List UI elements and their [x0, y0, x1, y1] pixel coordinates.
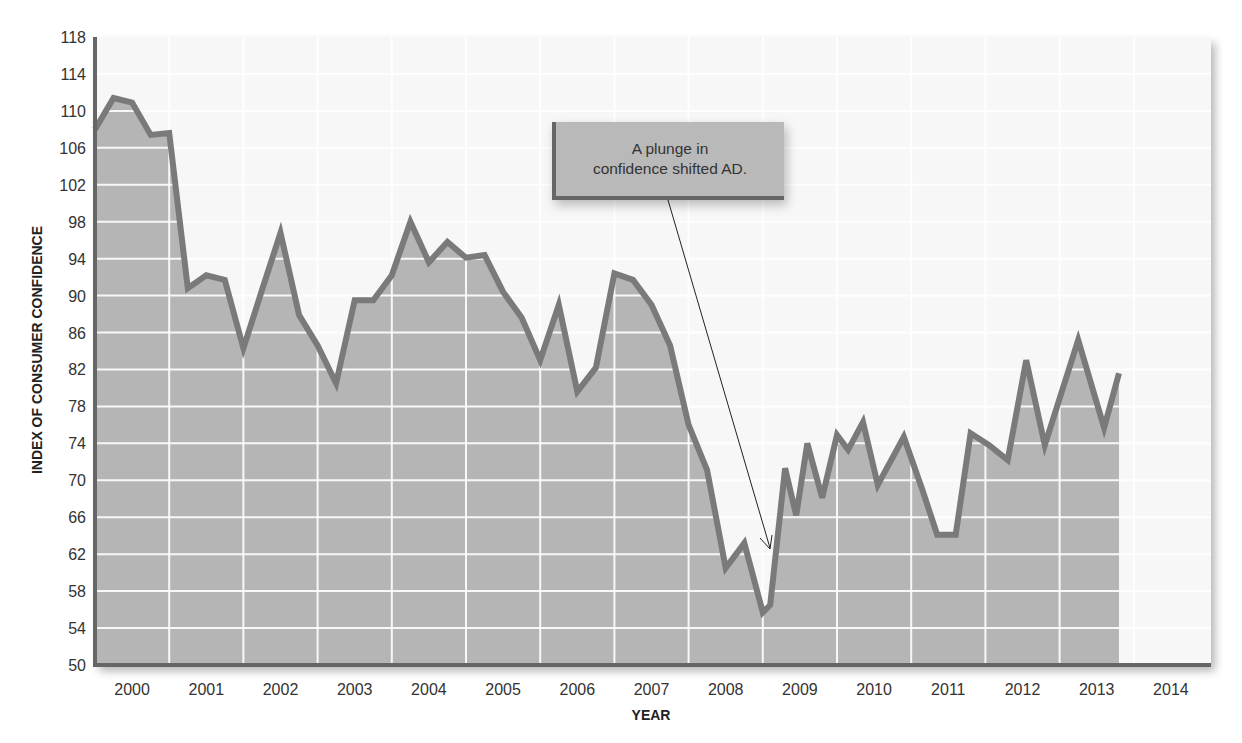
y-tick-label: 102: [59, 177, 86, 194]
x-tick-label: 2001: [189, 681, 225, 698]
x-tick-label: 2009: [782, 681, 818, 698]
x-tick-label: 2008: [708, 681, 744, 698]
callout-line-1: A plunge in: [593, 139, 747, 159]
y-tick-label: 94: [68, 251, 86, 268]
chart-canvas: 5054586266707478828690949810210611011411…: [0, 0, 1242, 743]
consumer-confidence-chart: 5054586266707478828690949810210611011411…: [0, 0, 1242, 743]
y-tick-label: 66: [68, 509, 86, 526]
y-tick-label: 106: [59, 140, 86, 157]
y-tick-label: 74: [68, 435, 86, 452]
x-tick-label: 2011: [931, 681, 966, 698]
y-tick-label: 58: [68, 583, 86, 600]
x-axis-label: YEAR: [632, 707, 671, 723]
x-tick-label: 2014: [1153, 681, 1189, 698]
y-tick-label: 114: [60, 66, 86, 83]
y-tick-label: 86: [68, 325, 86, 342]
x-tick-label: 2003: [337, 681, 373, 698]
y-tick-label: 82: [68, 361, 86, 378]
x-tick-label: 2000: [114, 681, 150, 698]
x-tick-label: 2004: [411, 681, 447, 698]
x-tick-label: 2010: [856, 681, 892, 698]
y-tick-label: 90: [68, 288, 86, 305]
x-tick-label: 2002: [263, 681, 299, 698]
y-tick-label: 62: [68, 546, 86, 563]
callout-line-2: confidence shifted AD.: [593, 159, 747, 179]
y-tick-label: 98: [68, 214, 86, 231]
y-tick-label: 70: [68, 472, 86, 489]
x-tick-label: 2012: [1005, 681, 1041, 698]
annotation-callout: A plunge in confidence shifted AD.: [552, 122, 784, 200]
y-tick-label: 118: [60, 29, 86, 46]
y-axis-ticks: 5054586266707478828690949810210611011411…: [59, 29, 86, 674]
x-tick-label: 2013: [1079, 681, 1115, 698]
y-tick-label: 50: [68, 657, 86, 674]
x-tick-label: 2006: [560, 681, 596, 698]
x-axis-ticks: 2000200120022003200420052006200720082009…: [114, 681, 1188, 698]
x-tick-label: 2005: [485, 681, 521, 698]
y-axis-label: INDEX OF CONSUMER CONFIDENCE: [29, 226, 45, 474]
x-tick-label: 2007: [634, 681, 670, 698]
y-tick-label: 54: [68, 620, 86, 637]
y-tick-label: 110: [60, 103, 86, 120]
y-tick-label: 78: [68, 398, 86, 415]
